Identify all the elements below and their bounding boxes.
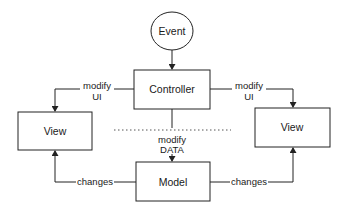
controller-label: Controller <box>149 83 195 95</box>
event-label: Event <box>159 25 186 37</box>
edge-label-changes-left: changes <box>77 176 113 187</box>
model-node: Model <box>136 162 210 201</box>
view-right-node: View <box>255 108 330 147</box>
edge-label-modify-data-2: DATA <box>160 144 185 155</box>
event-node: Event <box>151 12 193 50</box>
edge-label-modify-ui-right-2: UI <box>244 91 254 102</box>
edge-label-changes-right: changes <box>231 176 267 187</box>
controller-node: Controller <box>134 70 210 109</box>
view-left-label: View <box>44 125 67 137</box>
model-label: Model <box>159 176 188 188</box>
view-right-label: View <box>281 121 304 133</box>
edge-label-modify-ui-right-1: modify <box>235 80 263 91</box>
edge-label-modify-ui-left-1: modify <box>83 80 111 91</box>
mvc-diagram: Event Controller modify UI modify UI Vie… <box>0 0 346 212</box>
edge-label-modify-ui-left-2: UI <box>92 91 102 102</box>
view-left-node: View <box>18 112 92 150</box>
